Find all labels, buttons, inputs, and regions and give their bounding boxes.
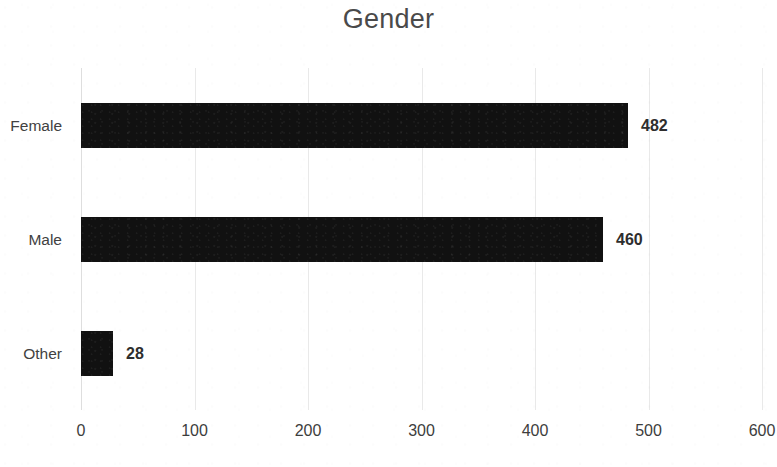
bar-value-male: 460 [616, 232, 643, 248]
bar-male[interactable] [81, 217, 603, 262]
bar-chart: Gender 482Female460Male28Other0100200300… [0, 0, 777, 467]
x-tick-label-400: 400 [495, 423, 575, 439]
bar-female[interactable] [81, 103, 628, 148]
category-label-male: Male [28, 232, 62, 248]
chart-title: Gender [0, 3, 777, 35]
category-label-other: Other [23, 346, 62, 362]
bar-value-other: 28 [126, 346, 144, 362]
bar-other[interactable] [81, 331, 113, 376]
x-tick-label-600: 600 [722, 423, 777, 439]
x-tick-label-0: 0 [41, 423, 121, 439]
bar-value-female: 482 [641, 118, 668, 134]
x-tick-label-100: 100 [155, 423, 235, 439]
category-label-female: Female [10, 118, 62, 134]
x-tick-label-200: 200 [268, 423, 348, 439]
x-tick-label-300: 300 [382, 423, 462, 439]
gridline-600 [762, 68, 763, 410]
x-tick-label-500: 500 [609, 423, 689, 439]
